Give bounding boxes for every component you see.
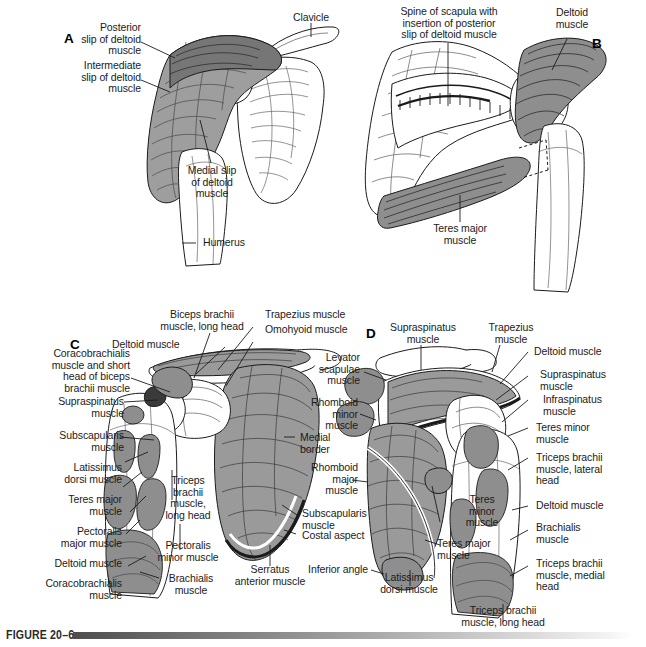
label-d-teres-major: Teres major muscle [437, 538, 515, 561]
label-d-supraspinatus-right: Supraspinatus muscle [540, 369, 640, 392]
panel-b-artwork [365, 38, 606, 292]
label-d-rhomboid-minor: Rhomboid minor muscle [294, 397, 358, 432]
label-d-latissimus: Latissimus dorsi muscle [366, 572, 452, 595]
label-c-deltoid-left: Deltoid muscle [12, 558, 122, 570]
label-c-coracobrachialis-short-biceps: Coracobrachialis muscle and short head o… [4, 348, 130, 394]
label-d-deltoid-low: Deltoid muscle [536, 500, 640, 512]
label-c-omohyoid: Omohyoid muscle [265, 324, 359, 336]
panel-a-artwork [147, 27, 339, 266]
label-c-costal-aspect: Costal aspect [302, 530, 388, 542]
panel-marker-d: D [366, 326, 376, 341]
label-c-biceps-long-head: Biceps brachii muscle, long head [156, 309, 248, 332]
label-d-levator-scapulae: Levator scapulae muscle [294, 352, 360, 387]
label-d-deltoid-top: Deltoid muscle [534, 346, 638, 358]
label-c-brachialis: Brachialis muscle [160, 573, 222, 596]
label-c-subscapularis-left: Subscapularis muscle [12, 430, 124, 453]
label-a-intermediate-slip: Intermediate slip of deltoid muscle [36, 60, 141, 95]
label-c-medial-border: Medial border [300, 432, 354, 455]
label-d-rhomboid-major: Rhomboid major muscle [294, 462, 358, 497]
label-c-trapezius: Trapezius muscle [265, 309, 357, 321]
figure-caption-label: FIGURE 20–6 [6, 628, 74, 642]
label-d-inferior-angle: Inferior angle [290, 564, 368, 576]
label-c-subscapularis-right: Subscapularis muscle [302, 508, 388, 531]
label-d-triceps-medial: Triceps brachii muscle, medial head [536, 558, 640, 593]
label-b-teres-major: Teres major muscle [424, 223, 496, 246]
label-c-pectoralis-minor: Pectoralis minor muscle [152, 540, 224, 563]
label-b-deltoid: Deltoid muscle [545, 7, 599, 30]
label-a-posterior-slip: Posterior slip of deltoid muscle [36, 22, 141, 57]
label-d-triceps-lateral: Triceps brachii muscle, lateral head [536, 452, 640, 487]
label-c-coracobrachialis: Coracobrachialis muscle [2, 578, 122, 601]
label-a-clavicle: Clavicle [278, 12, 344, 24]
label-d-teres-minor-mid: Teres minor muscle [460, 494, 504, 529]
label-c-supraspinatus: Supraspinatus muscle [14, 396, 124, 419]
label-b-spine-of-scapula: Spine of scapula with insertion of poste… [385, 6, 513, 41]
label-d-teres-minor-right: Teres minor muscle [536, 422, 636, 445]
label-d-brachialis: Brachialis muscle [536, 522, 624, 545]
label-a-humerus: Humerus [203, 237, 263, 249]
figure-caption-bar [73, 632, 633, 639]
label-c-teres-major: Teres major muscle [14, 494, 122, 517]
label-c-triceps-long-head: Triceps brachii muscle, long head [163, 475, 213, 521]
label-d-triceps-long: Triceps brachii muscle, long head [447, 605, 559, 628]
label-a-medial-slip: Medial slip of deltoid muscle [177, 165, 247, 200]
label-d-supraspinatus-top: Supraspinatus muscle [383, 322, 463, 345]
label-d-trapezius: Trapezius muscle [480, 322, 542, 345]
label-c-latissimus: Latissimus dorsi muscle [12, 462, 122, 485]
label-d-infraspinatus: Infraspinatus muscle [543, 394, 643, 417]
panel-marker-b: B [592, 36, 602, 51]
label-c-pectoralis-major: Pectoralis major muscle [12, 526, 122, 549]
